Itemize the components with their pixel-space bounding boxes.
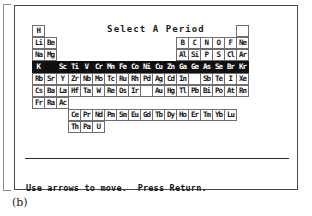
help-text: Use arrows to move. Press Return. Escape… [26, 161, 292, 216]
element-cell-ac[interactable]: Ac [56, 97, 69, 109]
footer-divider [25, 158, 289, 159]
figure-caption: (b) [12, 196, 28, 209]
table-row[interactable]: H [32, 25, 248, 37]
element-cell-lu[interactable]: Lu [224, 109, 237, 121]
page-edge-rule [3, 4, 4, 190]
table-row[interactable]: KCaScTiVCrMnFeCoNiCuZnGaGeAsSeBrKr [32, 61, 248, 73]
element-cell-ne[interactable]: Ne [236, 37, 249, 49]
table-row[interactable]: CePrNdPmSmEuGdTbDyHoErTmYbLu [68, 109, 236, 121]
table-row[interactable]: ThPaU [68, 121, 104, 133]
page-edge-rule-top [3, 4, 11, 5]
page-edge-rule-bottom [3, 190, 11, 191]
element-cell-ar[interactable]: Ar [236, 49, 249, 61]
terminal-window: Select A Period HLiBeBCNOFNeNaMgAlSiPSCl… [14, 5, 298, 190]
table-row[interactable]: RbSrYZrNbMoTcRuRhPdAgCdInSbTeIXe [32, 73, 248, 85]
element-cell-u[interactable]: U [92, 121, 105, 133]
table-row[interactable]: CsBaLaHfTaWReOsIrAuHgTlPbBiPoAtRn [32, 85, 248, 97]
element-cell-empty[interactable] [236, 25, 249, 37]
element-cell-rn[interactable]: Rn [236, 85, 249, 97]
periodic-table[interactable]: HLiBeBCNOFNeNaMgAlSiPSClArKCaScTiVCrMnFe… [32, 25, 284, 140]
element-cell-kr[interactable]: Kr [236, 61, 249, 73]
table-row[interactable]: NaMgAlSiPSClAr [32, 49, 248, 61]
table-row[interactable]: FrRaAc [32, 97, 68, 109]
help-line-move: Use arrows to move. Press Return. [26, 183, 292, 194]
table-row[interactable]: LiBeBCNOFNe [32, 37, 248, 49]
element-cell-xe[interactable]: Xe [236, 73, 249, 85]
